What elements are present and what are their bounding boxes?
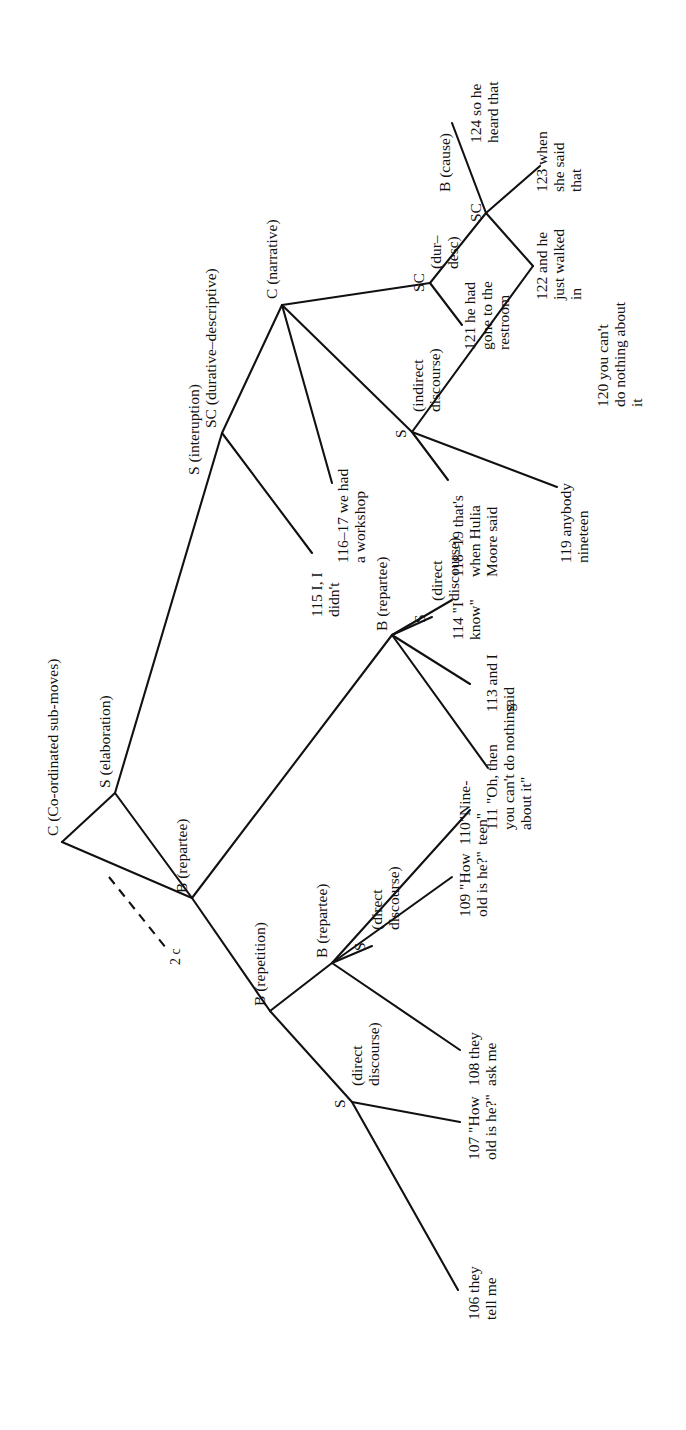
node-label-s-direct-mid-line1: S (411, 614, 428, 623)
leaf-label-121-line2: gone to the (478, 281, 495, 350)
node-label-b-cause: B (cause) (436, 133, 454, 192)
node-label-s-direct-bottom-line2: (direct (348, 1045, 366, 1086)
node-label-s-indirect-line2: (indirect (409, 359, 427, 412)
leaf-label-109-line1: 109 "How (456, 853, 473, 917)
branch-sc-to-leaf-123 (486, 166, 540, 213)
leaf-label-124-line2: heard that (484, 81, 501, 143)
leaf-label-114-line1: 114 "I (449, 602, 466, 640)
node-label-s-direct-low-line1: S (351, 942, 368, 951)
leaf-label-114-line2: know" (466, 599, 483, 640)
leaf-label-115-line1: 115 I, I (308, 572, 325, 617)
branch-sc-durdesc-to-leaf-121 (430, 283, 462, 325)
node-label-root: C (Co-ordinated sub-moves) (44, 659, 62, 836)
branch-repetition-to-repartee-low (270, 963, 332, 1011)
tree-diagram-canvas: C (Co-ordinated sub-moves) S (elaboratio… (0, 0, 686, 1430)
leaf-label-11819-line1: 118–19 that's (449, 495, 466, 577)
node-label-s-interuption: S (interuption) (185, 384, 203, 475)
node-label-s-indirect-line3: discourse) (426, 348, 444, 412)
leaf-label-106-line1: 106 they (465, 1266, 482, 1320)
node-label-s-direct-low-line3: discourse) (385, 866, 403, 930)
leaf-label-111-line2: you can't do nothing (500, 703, 517, 830)
leaf-label-119-line2: nineteen (574, 510, 591, 563)
branch-repartee-mid-to-leaf-111 (392, 635, 488, 768)
annotation-2c: 2 c (168, 948, 183, 965)
branch-repartee-main-to-repartee-mid (192, 635, 392, 898)
branch-s-direct-low-to-leaf-108 (332, 963, 460, 1050)
leaf-label-109-line2: old is he?" (473, 851, 490, 917)
node-label-c-narrative: C (narrative) (263, 219, 281, 299)
leaf-label-120-line3: it (628, 398, 645, 407)
leaf-label-123-line3: that (567, 168, 584, 192)
node-label-repartee-main: B (repartee) (173, 819, 191, 893)
leaf-label-11819-line2: when Hulia (466, 505, 483, 577)
branch-narrative-to-s-indirect (282, 305, 412, 432)
branch-sc-durative-to-leaf-115 (222, 433, 312, 553)
node-label-s-direct-bottom-line3: discourse) (365, 1022, 383, 1086)
node-label-sc-durdesc-line3: desc) (444, 236, 462, 269)
node-label-s-direct-bottom-line1: S (331, 1099, 348, 1108)
leaf-labels: 106 they tell me 107 "How old is he?" 10… (308, 81, 645, 1320)
node-label-s-direct-low-line2: (direct (368, 889, 386, 930)
node-label-elaboration: S (elaboration) (96, 695, 114, 788)
node-label-sc-durdesc-line2: (dur– (427, 235, 445, 269)
leaf-label-106-line2: tell me (482, 1277, 499, 1320)
leaf-label-11617-line2: a workshop (351, 491, 368, 563)
branch-s-direct-mid-to-leaf-113 (392, 635, 470, 684)
leaf-label-124-line1: 124 so he (467, 83, 484, 143)
leaf-label-107-line1: 107 "How (465, 1096, 482, 1160)
branch-s-direct-bottom-to-leaf-107 (352, 1102, 460, 1122)
node-label-repetition: B (repetition) (251, 922, 269, 1006)
leaf-label-113-line2: said (500, 687, 517, 712)
leaf-label-11617-line1: 116–17 we had (334, 469, 351, 563)
leaf-label-111-line1: 111 "Oh, then (483, 744, 500, 830)
leaf-label-122-line3: in (567, 288, 584, 300)
node-label-s-indirect-line1: S (392, 429, 409, 438)
leaf-label-122-line2: just walked (550, 229, 567, 301)
leaf-label-121-line1: 121 he had (461, 282, 478, 350)
leaf-label-111-line3: about it" (517, 777, 534, 830)
leaf-label-120-line2: do nothing about (611, 301, 628, 407)
leaf-label-121-line3: restroom (495, 295, 512, 350)
branch-repetition-to-s-direct-bottom (270, 1011, 352, 1102)
node-label-repartee-mid: B (repartee) (373, 557, 391, 631)
node-label-repartee-low: B (repartee) (313, 884, 331, 958)
branch-root-to-elaboration (62, 793, 115, 842)
leaf-label-119-line1: 119 anybody (557, 483, 574, 563)
leaf-label-120-line1: 120 you can't (594, 323, 611, 407)
leaf-label-113-line1: 113 and I (483, 654, 500, 712)
leaf-label-107-line2: old is he?" (482, 1094, 499, 1160)
branch-narrative-to-sc-dur-desc (282, 283, 430, 305)
node-label-s-direct-mid-line2: (direct (428, 560, 446, 601)
branch-sc-to-leaf-122 (486, 213, 533, 266)
leaf-label-108-line1: 108 they (465, 1032, 482, 1086)
leaf-label-110-line1: 110"Nine- (456, 781, 473, 845)
leaf-label-11819-line3: Moore said (483, 507, 500, 577)
leaf-label-115-line2: didn't (325, 582, 342, 617)
branch-sc-durative-to-narrative (222, 305, 282, 433)
node-label-sc: SC (467, 203, 484, 222)
leaf-label-108-line2: ask me (482, 1042, 499, 1086)
branch-narrative-to-leaf-11617 (282, 305, 332, 483)
leaf-label-123-line1: 123 when (533, 131, 550, 192)
node-label-sc-durative-descriptive: SC (durative–descriptive) (202, 268, 220, 428)
branch-dashed-2c (109, 877, 166, 948)
branch-s-direct-bottom-to-leaf-106 (352, 1102, 458, 1290)
branch-elaboration-to-sc-durative (115, 433, 222, 793)
leaf-label-122-line1: 122 and he (533, 232, 550, 300)
leaf-label-123-line2: she said (550, 142, 567, 192)
discourse-tree-figure: C (Co-ordinated sub-moves) S (elaboratio… (0, 0, 686, 1430)
node-labels: C (Co-ordinated sub-moves) S (elaboratio… (44, 133, 484, 1108)
node-label-sc-durdesc-line1: SC (410, 273, 427, 292)
